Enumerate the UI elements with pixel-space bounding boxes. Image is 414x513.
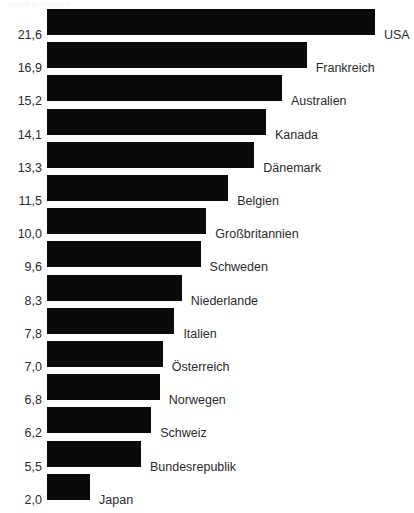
bar — [47, 441, 141, 467]
bar-row: 13,3Dänemark — [0, 141, 414, 174]
bar-category-label: USA — [384, 28, 410, 42]
bar-value-label: 5,5 — [0, 460, 42, 474]
bar-value-label: 14,1 — [0, 128, 42, 142]
bar — [47, 407, 151, 433]
bar-category-label: Australien — [291, 94, 347, 108]
bar-value-label: 21,6 — [0, 28, 42, 42]
bar-category-label: Österreich — [172, 360, 230, 374]
chart-plot-area: 21,6USA16,9Frankreich15,2Australien14,1K… — [0, 8, 414, 513]
bar-value-label: 7,0 — [0, 360, 42, 374]
bar-category-label: Kanada — [275, 128, 318, 142]
bar-row: 5,5Bundesrepublik — [0, 440, 414, 473]
bar-category-label: Frankreich — [316, 61, 375, 75]
bar-category-label: Italien — [183, 327, 216, 341]
bar — [47, 308, 174, 334]
bar-row: 7,0Österreich — [0, 340, 414, 373]
bar-value-label: 8,3 — [0, 294, 42, 308]
bar-row: 21,6USA — [0, 8, 414, 41]
bar — [47, 341, 163, 367]
bar-row: 2,0Japan — [0, 473, 414, 506]
bar — [47, 142, 254, 168]
bar — [47, 374, 160, 400]
bar — [47, 109, 266, 135]
bar-chart: Anteil in Prozent 21,6USA16,9Frankreich1… — [0, 0, 414, 513]
bar-row: 11,5Belgien — [0, 174, 414, 207]
bar — [47, 42, 307, 68]
bar-value-label: 15,2 — [0, 94, 42, 108]
bar-value-label: 2,0 — [0, 493, 42, 507]
bar-category-label: Japan — [99, 493, 133, 507]
bar — [47, 241, 201, 267]
bar-value-label: 13,3 — [0, 161, 42, 175]
bar — [47, 175, 228, 201]
bar-value-label: 9,6 — [0, 260, 42, 274]
bar-category-label: Norwegen — [169, 393, 226, 407]
bar — [47, 275, 182, 301]
bar-row: 15,2Australien — [0, 74, 414, 107]
bar-value-label: 11,5 — [0, 194, 42, 208]
bar — [47, 9, 375, 35]
bar-row: 14,1Kanada — [0, 108, 414, 141]
bar-value-label: 6,8 — [0, 393, 42, 407]
bar — [47, 474, 90, 500]
bar-category-label: Bundesrepublik — [150, 460, 236, 474]
bar-category-label: Schweiz — [160, 426, 207, 440]
bar-row: 6,8Norwegen — [0, 373, 414, 406]
bar-row: 9,6Schweden — [0, 240, 414, 273]
bar-category-label: Niederlande — [191, 294, 258, 308]
bar-category-label: Schweden — [210, 260, 268, 274]
bar-row: 8,3Niederlande — [0, 274, 414, 307]
bar-row: 6,2Schweiz — [0, 406, 414, 439]
bar-value-label: 10,0 — [0, 227, 42, 241]
bar-category-label: Belgien — [237, 194, 279, 208]
bar-value-label: 16,9 — [0, 61, 42, 75]
bar-category-label: Großbritannien — [215, 227, 298, 241]
bar-category-label: Dänemark — [263, 161, 321, 175]
bar — [47, 75, 282, 101]
bar-row: 10,0Großbritannien — [0, 207, 414, 240]
bar-value-label: 7,8 — [0, 327, 42, 341]
bar-value-label: 6,2 — [0, 426, 42, 440]
bar-row: 16,9Frankreich — [0, 41, 414, 74]
bar — [47, 208, 206, 234]
bar-row: 7,8Italien — [0, 307, 414, 340]
